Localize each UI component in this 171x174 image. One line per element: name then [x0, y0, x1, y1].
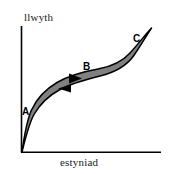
plot-area: [0, 0, 171, 174]
curve-point-label-a: A: [22, 107, 29, 117]
hysteresis-loop-band: [22, 28, 152, 152]
y-axis-label: llwyth: [24, 11, 53, 23]
x-axis-label: estyniad: [60, 156, 98, 168]
curve-point-label-b: B: [83, 62, 90, 72]
stress-strain-hysteresis-figure: llwyth estyniad A B C: [0, 0, 171, 174]
curve-point-label-c: C: [133, 34, 140, 44]
